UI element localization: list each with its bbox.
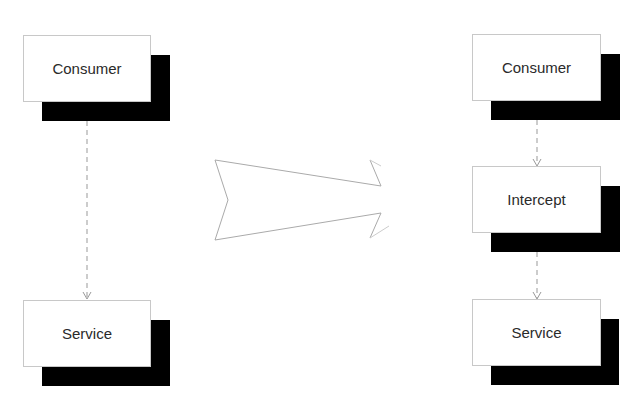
edge-before-consumer-service bbox=[83, 121, 91, 299]
node-label: Consumer bbox=[502, 59, 571, 76]
edge-after-consumer-intercept bbox=[533, 120, 541, 166]
after-intercept-node: Intercept bbox=[472, 166, 601, 233]
before-service-node: Service bbox=[23, 300, 151, 367]
after-service-node: Service bbox=[472, 299, 601, 366]
node-label: Consumer bbox=[52, 60, 121, 77]
edge-after-intercept-service bbox=[533, 252, 541, 299]
node-label: Service bbox=[62, 325, 112, 342]
transform-arrow-icon bbox=[215, 160, 389, 240]
node-label: Intercept bbox=[507, 191, 565, 208]
after-consumer-node: Consumer bbox=[472, 34, 601, 101]
node-label: Service bbox=[511, 324, 561, 341]
before-consumer-node: Consumer bbox=[23, 35, 151, 102]
